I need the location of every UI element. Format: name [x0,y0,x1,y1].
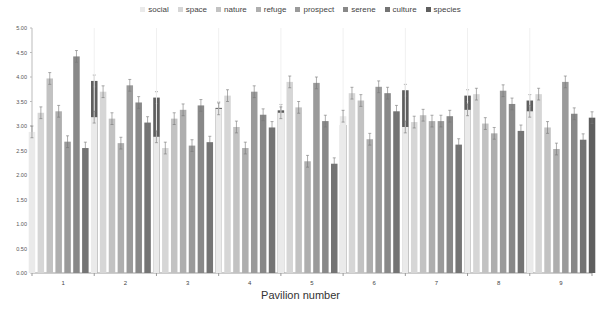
y-tick-label: 1.00 [16,221,27,227]
y-tick-label: 3.50 [16,99,27,105]
bar-social-7 [402,127,409,273]
bar-prospect-3 [189,146,196,273]
bar-serene-7 [447,116,454,273]
x-tick-label: 4 [248,280,252,286]
bar-nature-1 [47,78,54,273]
bar-space-3 [162,148,169,273]
bar-serene-1 [73,56,80,273]
bar-social-1 [29,132,36,273]
bar-space-9 [535,94,542,273]
bar-culture-9 [580,140,587,273]
bar-serene-4 [260,115,267,273]
x-tick-label: 3 [186,280,190,286]
bar-space-7 [411,122,418,273]
bar-culture-1 [82,148,89,273]
bar-nature-6 [358,101,365,273]
bar-social-6 [340,116,347,273]
bar-nature-5 [295,107,302,273]
bar-prospect-7 [438,121,445,273]
bar-nature-7 [420,115,427,273]
y-tick-label: 4.00 [16,74,27,80]
bar-nature-4 [233,127,240,273]
bar-nature-8 [482,124,489,273]
bar-refuge-5 [304,161,311,273]
x-tick-label: 7 [435,280,439,286]
bar-space-5 [287,82,294,273]
bar-refuge-2 [118,143,125,273]
y-tick-label: 3.00 [16,123,27,129]
bar-refuge-7 [429,121,436,273]
bar-prospect-2 [127,85,133,273]
bar-culture-7 [455,145,462,273]
bar-refuge-9 [553,149,560,273]
x-tick-label: 6 [373,280,377,286]
bar-social-8 [464,110,471,273]
bar-serene-3 [198,105,205,273]
bar-social-9 [526,111,533,273]
y-tick-label: 1.50 [16,197,27,203]
bar-species-9 [589,118,596,273]
bar-refuge-1 [55,111,62,273]
bar-space-2 [100,92,107,273]
bar-social-3 [153,137,160,273]
bar-refuge-4 [242,148,249,273]
bar-social-5 [278,113,285,273]
y-tick-label: 5.00 [16,25,27,31]
bar-nature-2 [109,119,116,273]
bar-culture-5 [331,164,338,273]
bar-refuge-8 [491,133,498,273]
bar-refuge-6 [367,139,374,273]
grouped-bar-chart: socialspacenaturerefugeprospectserenecul… [0,0,601,309]
bar-serene-8 [509,104,516,273]
bar-culture-6 [393,111,400,273]
bar-nature-9 [544,127,551,273]
bar-social-2 [91,117,98,273]
x-tick-label: 1 [61,280,65,286]
bar-space-4 [224,96,231,273]
bar-prospect-4 [251,92,258,273]
bar-culture-3 [207,142,214,273]
y-tick-label: 0.50 [16,246,27,252]
bar-serene-2 [135,102,142,273]
x-axis-title: Pavilion number [0,289,601,301]
bar-serene-9 [571,114,578,273]
x-tick-label: 8 [497,280,501,286]
bar-prospect-8 [500,91,507,273]
x-tick-label: 5 [310,280,314,286]
bar-space-6 [349,93,356,273]
bar-serene-6 [384,93,391,273]
y-tick-label: 2.00 [16,172,27,178]
x-tick-label: 9 [559,280,563,286]
bar-space-1 [38,113,45,273]
plot-area: 0.000.501.001.502.002.503.003.504.004.50… [0,0,601,309]
y-tick-label: 4.50 [16,50,27,56]
bar-space-8 [473,94,480,273]
bar-prospect-1 [64,142,71,273]
bar-culture-4 [269,127,276,273]
bar-social-4 [215,109,222,273]
x-tick-label: 2 [124,280,128,286]
bar-refuge-3 [180,110,187,273]
bar-serene-5 [322,121,329,273]
y-tick-label: 0.00 [16,270,27,276]
bar-culture-8 [518,131,525,273]
bar-culture-2 [144,123,151,273]
y-tick-label: 2.50 [16,148,27,154]
bar-prospect-9 [562,82,569,273]
bar-nature-3 [171,119,178,273]
bar-prospect-6 [375,87,382,273]
bar-prospect-5 [313,83,320,273]
